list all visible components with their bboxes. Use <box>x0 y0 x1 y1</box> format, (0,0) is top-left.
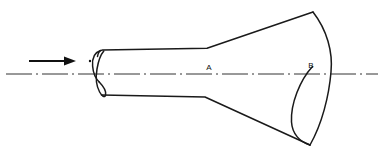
exit-ellipse-right-arc <box>310 12 331 145</box>
diagram-canvas: A B <box>0 0 385 156</box>
nozzle-top-wall <box>98 12 314 57</box>
nozzle-diagram: A B <box>0 0 385 156</box>
exit-ellipse-left-arc <box>291 67 312 146</box>
station-label-a: A <box>206 63 212 72</box>
nozzle-bottom-wall <box>102 95 311 145</box>
flow-direction-arrow <box>29 57 76 66</box>
inlet-marker-dot <box>89 60 91 62</box>
flow-arrow-head <box>64 57 76 66</box>
station-label-b: B <box>308 61 314 70</box>
